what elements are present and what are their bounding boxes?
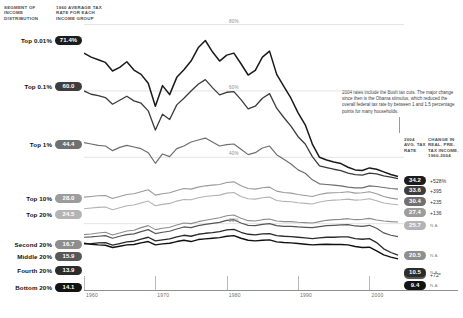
- series-2004-rate-pill: 30.4: [404, 197, 426, 206]
- series-name-label: Top 20%: [0, 211, 52, 218]
- x-axis-tick-label: 1990: [300, 292, 312, 298]
- column-header-income-change: CHANGE IN REAL, PRE-TAX INCOME, 1960-200…: [428, 137, 462, 159]
- series-1960-rate-pill: 14.1: [55, 283, 82, 292]
- series-1960-rate-pill: 13.9: [55, 266, 82, 275]
- series-name-label: Top 10%: [0, 195, 52, 202]
- series-2004-rate-pill: 9.4: [404, 281, 426, 290]
- x-axis-tick: [84, 276, 85, 290]
- series-2004-rate-pill: 33.6: [404, 186, 426, 195]
- series-line: [84, 138, 398, 189]
- series-income-change-value: N.A.: [430, 253, 439, 258]
- series-2004-rate-pill: 25.7: [404, 221, 426, 230]
- series-1960-rate-pill: 24.5: [55, 210, 82, 219]
- series-1960-rate-pill: 60.0: [55, 82, 82, 91]
- x-axis-tick: [227, 276, 228, 290]
- series-income-change-value: +136: [430, 210, 442, 216]
- y-axis-tick-label: 20%: [229, 218, 239, 223]
- series-1960-rate-pill: 16.7: [55, 240, 82, 249]
- y-axis-tick-label: 60%: [229, 85, 239, 90]
- series-2004-rate-pill: 34.2: [404, 176, 426, 185]
- x-axis-tick-label: 1970: [157, 292, 169, 298]
- series-line: [84, 236, 398, 259]
- series-name-label: Top 0.1%: [0, 83, 52, 90]
- series-income-change-value: N.A.: [430, 283, 439, 288]
- series-name-label: Second 20%: [0, 241, 52, 248]
- chart-lines-svg: [84, 8, 404, 290]
- series-name-label: Top 1%: [0, 141, 52, 148]
- series-line: [84, 192, 398, 209]
- x-axis-tick: [155, 276, 156, 290]
- series-income-change-value: N.A.: [430, 223, 439, 228]
- series-1960-rate-pill: 71.4%: [55, 36, 82, 45]
- series-line: [84, 41, 398, 177]
- series-income-change-value: +395: [430, 188, 442, 194]
- series-line: [84, 80, 398, 179]
- series-income-change-value: +235: [430, 199, 442, 205]
- chart-baseline-axis: [84, 290, 458, 291]
- series-2004-rate-pill: 27.4: [404, 208, 426, 217]
- series-name-label: Fourth 20%: [0, 267, 52, 274]
- y-axis-tick-label: 80%: [229, 19, 239, 24]
- series-line: [84, 220, 398, 239]
- x-axis-tick-label: 1980: [229, 292, 241, 298]
- series-name-label: Middle 20%: [0, 253, 52, 260]
- x-axis-tick: [369, 276, 370, 290]
- column-header-segment: SEGMENT OF INCOME DISTRIBUTION: [4, 5, 50, 21]
- series-name-label: Bottom 20%: [0, 284, 52, 291]
- series-2004-rate-pill: 10.5: [404, 268, 426, 277]
- chart-plot-area: [84, 8, 404, 290]
- x-axis-tick: [298, 276, 299, 290]
- y-axis-tick-label: 40%: [229, 151, 239, 156]
- series-1960-rate-pill: 15.9: [55, 252, 82, 261]
- series-1960-rate-pill: 28.0: [55, 194, 82, 203]
- series-line: [84, 229, 398, 255]
- column-header-2004-rate: 2004 AVG. TAX RATE: [404, 137, 426, 153]
- x-axis-tick-label: 1960: [86, 292, 98, 298]
- series-income-change-value: N.A.: [430, 270, 439, 275]
- series-name-label: Top 0.01%: [0, 37, 52, 44]
- series-2004-rate-pill: 20.5: [404, 251, 426, 260]
- series-income-change-value: +528%: [430, 178, 446, 184]
- series-1960-rate-pill: 44.4: [55, 140, 82, 149]
- x-axis-tick-label: 2000: [371, 292, 383, 298]
